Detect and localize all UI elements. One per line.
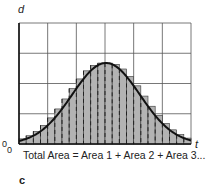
area-bar bbox=[105, 63, 112, 144]
area-bar bbox=[98, 63, 105, 144]
riemann-sum-diagram: d t 0 0 Total Area = Area 1 + Area 2 + A… bbox=[0, 0, 209, 189]
area-bar bbox=[91, 65, 98, 144]
total-area-caption: Total Area = Area 1 + Area 2 + Area 3... bbox=[23, 150, 205, 161]
y-axis-label: d bbox=[18, 4, 24, 15]
approximation-bars bbox=[19, 63, 191, 144]
area-bar bbox=[127, 76, 134, 144]
area-bar bbox=[84, 71, 91, 144]
origin-label-x: 0 bbox=[7, 146, 12, 155]
area-bar bbox=[119, 69, 126, 144]
area-bar bbox=[112, 64, 119, 144]
panel-label: c bbox=[19, 175, 25, 186]
